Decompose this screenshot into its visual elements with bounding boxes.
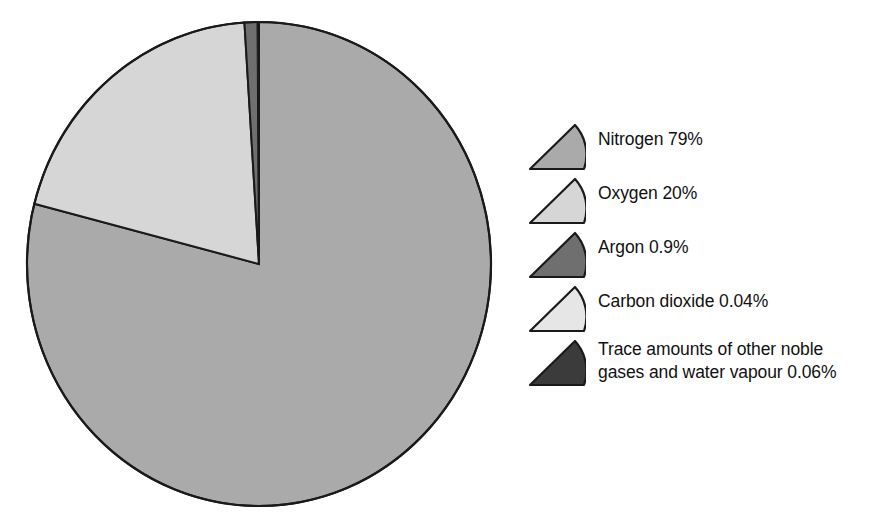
legend-label-nitrogen: Nitrogen 79% <box>598 128 868 151</box>
legend-label-trace: Trace amounts of other noble gases and w… <box>598 338 868 384</box>
legend-swatch-nitrogen-icon <box>528 122 586 172</box>
legend-label-argon: Argon 0.9% <box>598 236 868 259</box>
legend-item-carbon-dioxide: Carbon dioxide 0.04% <box>528 282 878 336</box>
legend-label-carbon-dioxide: Carbon dioxide 0.04% <box>598 290 868 313</box>
legend-item-argon: Argon 0.9% <box>528 228 878 282</box>
legend-item-oxygen: Oxygen 20% <box>528 174 878 228</box>
legend-swatch-carbon-dioxide-icon <box>528 284 586 334</box>
legend-swatch-trace-icon <box>528 338 586 388</box>
legend-label-oxygen: Oxygen 20% <box>598 182 868 205</box>
legend-item-nitrogen: Nitrogen 79% <box>528 120 878 174</box>
atmosphere-composition-figure: Nitrogen 79% Oxygen 20% Argon 0.9% Carbo… <box>0 0 889 522</box>
legend-swatch-argon-icon <box>528 230 586 280</box>
legend-item-trace: Trace amounts of other noble gases and w… <box>528 336 878 398</box>
legend-swatch-oxygen-icon <box>528 176 586 226</box>
pie-chart <box>0 0 520 522</box>
pie-slices <box>27 22 491 506</box>
chart-legend: Nitrogen 79% Oxygen 20% Argon 0.9% Carbo… <box>528 120 878 398</box>
